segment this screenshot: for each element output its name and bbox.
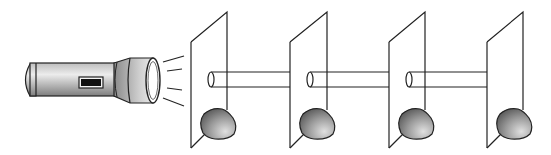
tube-1 [208,72,290,87]
flashlight [26,58,161,103]
clay-base-2 [300,109,335,140]
tube-2 [307,72,389,87]
flashlight-screens-diagram [0,0,551,155]
clay-base-1 [201,109,236,140]
light-rays [163,56,184,106]
tube-3 [406,72,487,87]
screen-4 [487,12,532,148]
clay-base-3 [399,109,434,140]
clay-base-4 [497,109,532,140]
diagram-canvas [0,0,551,155]
